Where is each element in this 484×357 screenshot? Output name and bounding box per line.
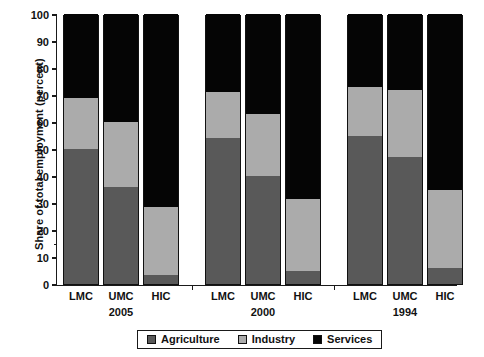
- y-axis-tick: [52, 14, 57, 15]
- bar-segment-agriculture: [206, 138, 240, 284]
- stacked-bar-chart: Share of total employment (percent) 0102…: [0, 0, 484, 357]
- bar-segment-agriculture: [246, 176, 280, 284]
- bar-segment-services: [104, 14, 138, 122]
- x-axis-labels: LMCUMCHIC2005LMCUMCHIC2000LMCUMCHIC1994: [57, 290, 457, 330]
- bar-segment-agriculture: [144, 275, 178, 284]
- y-axis-tick-label: 70: [5, 91, 49, 102]
- bar-segment-agriculture: [428, 268, 462, 284]
- bar-segment-services: [348, 14, 382, 87]
- legend-label-services: Services: [327, 334, 372, 345]
- bar-segment-industry: [104, 122, 138, 187]
- y-axis-tick-label: 100: [5, 10, 49, 21]
- y-axis-tick: [52, 203, 57, 204]
- y-axis-tick: [52, 230, 57, 231]
- bar-segment-services: [428, 14, 462, 190]
- y-axis-tick-label: 20: [5, 226, 49, 237]
- y-axis-tick-label: 0: [5, 280, 49, 291]
- y-axis-tick: [52, 68, 57, 69]
- y-axis-tick: [52, 257, 57, 258]
- y-axis-tick-label: 50: [5, 145, 49, 156]
- bar-segment-industry: [388, 90, 422, 158]
- bar-2005-HIC[interactable]: [143, 15, 179, 285]
- x-axis-line: [52, 285, 457, 286]
- y-axis-tick-label: 40: [5, 172, 49, 183]
- bar-group-1994: [347, 15, 463, 285]
- bar-2000-LMC[interactable]: [205, 15, 241, 285]
- bar-segment-industry: [428, 190, 462, 268]
- bar-segment-agriculture: [286, 271, 320, 285]
- bar-segment-services: [246, 14, 280, 114]
- x-tick-label-2005-HIC: HIC: [134, 290, 188, 302]
- x-tick-label-2000-HIC: HIC: [276, 290, 330, 302]
- chart-legend: AgricultureIndustryServices: [137, 330, 382, 349]
- bar-segment-industry: [286, 199, 320, 271]
- bar-1994-LMC[interactable]: [347, 15, 383, 285]
- y-axis-tick-label: 90: [5, 37, 49, 48]
- bar-segment-services: [206, 14, 240, 92]
- bar-2005-UMC[interactable]: [103, 15, 139, 285]
- y-axis-tick: [52, 176, 57, 177]
- y-axis-tick-label: 80: [5, 64, 49, 75]
- bar-segment-services: [144, 14, 178, 207]
- bar-2000-UMC[interactable]: [245, 15, 281, 285]
- bar-segment-industry: [348, 87, 382, 136]
- x-axis-group-tick: [334, 285, 335, 290]
- bar-segment-industry: [246, 114, 280, 176]
- bar-segment-agriculture: [388, 157, 422, 284]
- bar-group-2000: [205, 15, 321, 285]
- bar-1994-UMC[interactable]: [387, 15, 423, 285]
- bar-segment-services: [64, 14, 98, 98]
- bar-2000-HIC[interactable]: [285, 15, 321, 285]
- bar-2005-LMC[interactable]: [63, 15, 99, 285]
- x-group-label-2000: 2000: [203, 306, 323, 318]
- y-axis-tick: [52, 41, 57, 42]
- y-axis-tick: [52, 149, 57, 150]
- y-axis-tick: [52, 284, 57, 285]
- plot-area: 0102030405060708090100: [57, 15, 457, 285]
- legend-item-agriculture[interactable]: Agriculture: [147, 334, 220, 345]
- legend-item-industry[interactable]: Industry: [238, 334, 295, 345]
- bar-segment-agriculture: [348, 136, 382, 285]
- y-axis-tick-label: 30: [5, 199, 49, 210]
- bar-segment-industry: [206, 92, 240, 138]
- legend-label-agriculture: Agriculture: [161, 334, 220, 345]
- y-axis-tick-label: 60: [5, 118, 49, 129]
- x-tick-label-1994-HIC: HIC: [418, 290, 472, 302]
- x-group-label-2005: 2005: [61, 306, 181, 318]
- x-group-label-1994: 1994: [345, 306, 465, 318]
- bar-group-2005: [63, 15, 179, 285]
- x-axis-group-tick: [192, 285, 193, 290]
- legend-item-services[interactable]: Services: [313, 334, 372, 345]
- y-axis-tick: [52, 95, 57, 96]
- y-axis-tick: [52, 122, 57, 123]
- legend-swatch-agriculture: [147, 335, 156, 344]
- y-axis-minor-tick: [54, 244, 57, 245]
- y-axis-tick-label: 10: [5, 253, 49, 264]
- y-axis-tick-labels: 0102030405060708090100: [5, 15, 49, 285]
- bar-segment-services: [388, 14, 422, 90]
- bar-segment-services: [286, 14, 320, 199]
- legend-swatch-services: [313, 335, 322, 344]
- bar-segment-industry: [144, 207, 178, 275]
- bar-1994-HIC[interactable]: [427, 15, 463, 285]
- bar-segment-agriculture: [104, 187, 138, 284]
- legend-label-industry: Industry: [252, 334, 295, 345]
- bar-segment-agriculture: [64, 149, 98, 284]
- bar-segment-industry: [64, 98, 98, 149]
- legend-swatch-industry: [238, 335, 247, 344]
